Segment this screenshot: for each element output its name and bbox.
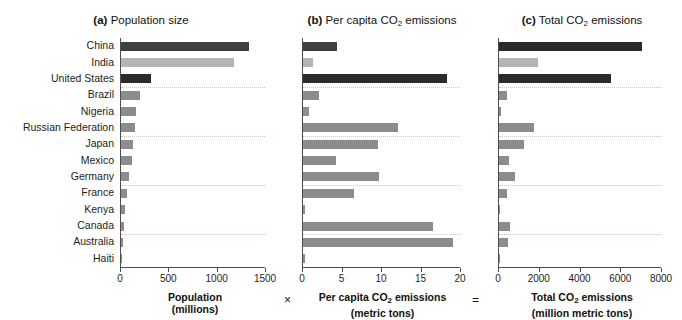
bar <box>499 42 642 51</box>
panel-total-emissions: (c) Total CO2 emissions 0200040006000800… <box>482 0 682 320</box>
x-axis-tick <box>498 268 499 272</box>
bar <box>121 74 151 83</box>
bar <box>121 238 123 247</box>
x-axis-tick <box>580 268 581 272</box>
panel-a-plot-area: 050010001500 <box>120 38 265 267</box>
bar <box>499 254 500 263</box>
bar <box>303 205 305 214</box>
panel-a-title: (a) Population size <box>0 14 282 26</box>
panel-a-axis-title-line2: (millions) <box>172 303 219 315</box>
gridline <box>499 136 661 137</box>
bar <box>303 74 447 83</box>
x-axis-tick <box>539 268 540 272</box>
gridline <box>499 87 661 88</box>
panel-b-title: (b) Per capita CO2 emissions <box>282 14 482 28</box>
bar <box>499 140 524 149</box>
panel-c-axis-title-post: emissions <box>579 291 633 303</box>
bar <box>499 74 611 83</box>
x-axis-tick-label: 500 <box>143 273 193 284</box>
panel-b-axis-title-line2: (metric tons) <box>351 307 415 319</box>
bar <box>499 156 509 165</box>
x-axis-tick <box>421 268 422 272</box>
bar <box>303 42 337 51</box>
bar <box>303 238 453 247</box>
bar <box>121 254 122 263</box>
operator-times: × <box>284 293 291 307</box>
panel-b-axis-title-pre: Per capita CO <box>319 291 388 303</box>
x-axis-tick <box>661 268 662 272</box>
gridline <box>121 185 265 186</box>
panel-c-axis-title: Total CO2 emissions (million metric tons… <box>492 291 672 319</box>
gridline <box>303 234 460 235</box>
bar <box>499 189 507 198</box>
gridline <box>499 234 661 235</box>
x-axis-tick-label: 8000 <box>636 273 682 284</box>
x-axis-tick <box>217 268 218 272</box>
panel-b-title-pre: Per capita CO <box>325 14 397 26</box>
panel-c-tag: (c) <box>522 14 536 26</box>
panel-c-axis-title-pre: Total CO <box>531 291 574 303</box>
bar <box>303 107 309 116</box>
panel-c-plot-area: 02000400060008000 <box>498 38 661 267</box>
bar <box>121 140 133 149</box>
bar <box>303 91 319 100</box>
x-axis-tick <box>120 268 121 272</box>
gridline <box>121 234 265 235</box>
bar <box>121 222 124 231</box>
x-axis-tick <box>302 268 303 272</box>
x-axis-tick <box>168 268 169 272</box>
panel-per-capita-emissions: (b) Per capita CO2 emissions 05101520 Pe… <box>282 0 482 320</box>
x-axis-tick <box>460 268 461 272</box>
bar <box>499 172 515 181</box>
bar <box>499 222 510 231</box>
x-axis-line <box>120 267 265 268</box>
bar <box>499 107 501 116</box>
bar <box>303 189 354 198</box>
gridline <box>499 185 661 186</box>
panel-a-axis-title-line1: Population <box>168 291 222 303</box>
bar <box>499 58 538 67</box>
gridline <box>303 87 460 88</box>
operator-equals: = <box>472 293 479 307</box>
bar <box>121 123 135 132</box>
panel-c-title-pre: Total CO <box>539 14 584 26</box>
bar <box>303 254 305 263</box>
bar <box>499 205 500 214</box>
bar <box>121 58 234 67</box>
panel-c-axis-title-line2: (million metric tons) <box>532 307 632 319</box>
panel-b-axis-title-post: emissions <box>392 291 446 303</box>
bar <box>303 172 379 181</box>
panel-b-tag: (b) <box>308 14 323 26</box>
bar <box>121 172 129 181</box>
panel-c-title: (c) Total CO2 emissions <box>482 14 682 28</box>
x-axis-tick <box>342 268 343 272</box>
y-axis-line <box>302 38 303 267</box>
bar <box>303 222 433 231</box>
y-axis-line <box>498 38 499 267</box>
bar <box>121 189 127 198</box>
bar <box>121 42 249 51</box>
gridline <box>303 136 460 137</box>
x-axis-tick-label: 0 <box>95 273 145 284</box>
panel-a-tag: (a) <box>93 14 107 26</box>
panel-b-title-post: emissions <box>402 14 456 26</box>
figure-root: ChinaIndiaUnited StatesBrazilNigeriaRuss… <box>0 0 682 320</box>
panel-population-size: (a) Population size 050010001500 Populat… <box>0 0 282 320</box>
bar <box>499 238 508 247</box>
bar <box>121 91 140 100</box>
bar <box>303 58 313 67</box>
x-axis-tick <box>620 268 621 272</box>
bar <box>303 140 378 149</box>
gridline <box>121 136 265 137</box>
panel-b-plot-area: 05101520 <box>302 38 460 267</box>
x-axis-tick-label: 1000 <box>192 273 242 284</box>
bar <box>499 123 534 132</box>
x-axis-tick <box>265 268 266 272</box>
bar <box>121 107 136 116</box>
x-axis-tick <box>381 268 382 272</box>
bar <box>121 156 132 165</box>
gridline <box>303 185 460 186</box>
bar <box>121 205 125 214</box>
panel-a-axis-title: Population (millions) <box>120 291 270 315</box>
gridline <box>121 87 265 88</box>
